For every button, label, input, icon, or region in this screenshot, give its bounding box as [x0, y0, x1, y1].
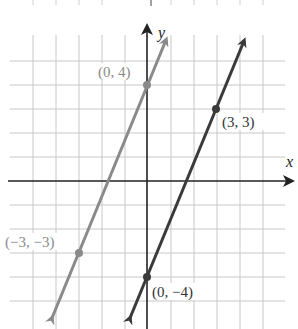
- point-neg3-neg3: [75, 249, 83, 257]
- y-axis-label: y: [156, 24, 166, 42]
- coordinate-graph: x y (0, 4) (−3, −3) (3, 3) (0, −4): [0, 0, 298, 329]
- label-point-0-4: (0, 4): [98, 64, 131, 81]
- top-remnant-ticks: [33, 0, 263, 6]
- label-point-3-3: (3, 3): [222, 114, 255, 131]
- point-0-neg4: [143, 273, 151, 281]
- axes: [8, 28, 290, 329]
- label-point-0-neg4: (0, −4): [152, 284, 193, 301]
- point-0-4: [143, 81, 151, 89]
- x-axis-label: x: [285, 153, 293, 170]
- point-3-3: [212, 105, 220, 113]
- label-point-neg3-neg3: (−3, −3): [5, 234, 54, 251]
